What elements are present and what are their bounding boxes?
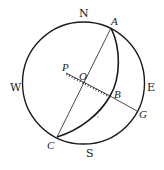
tick-marks	[67, 74, 111, 97]
label-point-a: A	[110, 15, 118, 27]
label-point-b: B	[114, 88, 121, 100]
small-mark	[97, 116, 98, 117]
label-point-g: G	[139, 108, 147, 120]
label-east: E	[147, 81, 155, 94]
label-point-p: P	[61, 61, 69, 73]
label-point-c: C	[47, 139, 55, 151]
label-west: W	[10, 81, 22, 94]
label-south: S	[86, 147, 94, 160]
celestial-diagram: N S W E A C O P B G	[0, 0, 164, 170]
label-north: N	[79, 7, 89, 20]
label-point-o: O	[79, 70, 87, 82]
great-circle-arc	[57, 28, 118, 137]
